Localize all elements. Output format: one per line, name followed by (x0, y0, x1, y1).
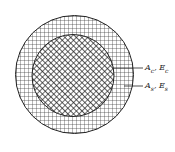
core-label: Ac, Ec (145, 63, 168, 75)
inner-core-region (32, 35, 114, 117)
cross-section-diagram (0, 0, 175, 152)
shell-label: As, Es (145, 81, 168, 93)
